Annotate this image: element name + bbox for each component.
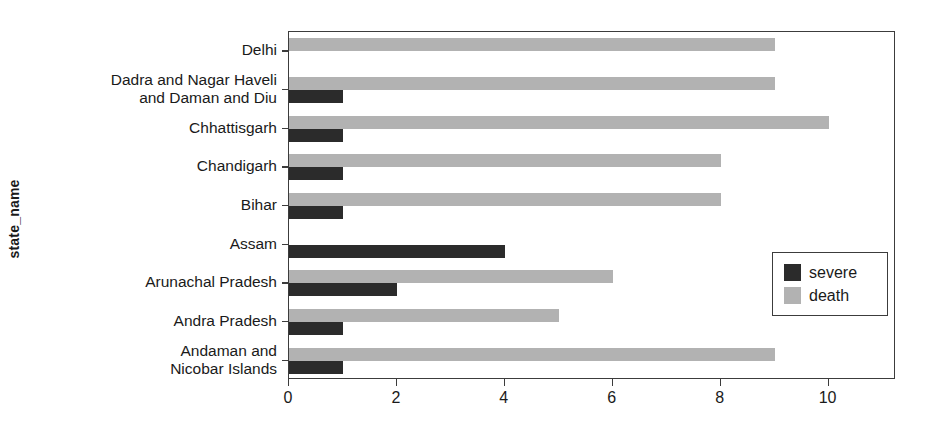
bar-death [289,193,721,206]
bar-severe [289,167,343,180]
y-tick-label: Dadra and Nagar Haveli and Daman and Diu [111,71,277,107]
bar-severe [289,90,343,103]
bar-severe [289,361,343,374]
legend-swatch-death [784,287,801,304]
x-tick-label: 0 [284,389,293,407]
legend-label-severe: severe [809,264,857,281]
x-tick-label: 4 [499,389,508,407]
x-tick-mark [396,379,397,386]
bar-death [289,154,721,167]
x-tick-mark [720,379,721,386]
y-tick-label: Bihar [241,196,277,214]
x-tick-mark [828,379,829,386]
x-tick-mark [504,379,505,386]
bar-severe [289,129,343,142]
y-tick-label: Assam [230,235,277,253]
y-tick-label: Andra Pradesh [174,312,277,330]
bar-death [289,77,775,90]
plot-area [288,31,895,379]
y-axis-tick-labels: Andaman and Nicobar IslandsAndra Pradesh… [28,31,283,379]
legend[interactable]: severe death [772,252,888,316]
bar-severe [289,283,397,296]
x-tick-label: 10 [819,389,837,407]
legend-entry-severe[interactable]: severe [784,261,887,284]
x-tick-label: 8 [715,389,724,407]
bar-severe [289,206,343,219]
bar-death [289,348,775,361]
bar-death [289,116,829,129]
y-tick-label: Chhattisgarh [189,119,277,137]
x-tick-mark [288,379,289,386]
y-tick-label: Arunachal Pradesh [145,273,277,291]
bar-chart: state_name Andaman and Nicobar IslandsAn… [0,0,933,438]
legend-swatch-severe [784,264,801,281]
y-tick-label: Chandigarh [197,157,277,175]
y-axis-title: state_name [0,0,28,438]
bar-death [289,270,613,283]
bar-severe [289,322,343,335]
x-tick-label: 6 [607,389,616,407]
x-tick-mark [612,379,613,386]
x-tick-label: 2 [391,389,400,407]
legend-label-death: death [809,287,849,304]
legend-entry-death[interactable]: death [784,284,887,307]
y-tick-label: Andaman and Nicobar Islands [170,342,277,378]
bar-severe [289,245,505,258]
bar-death [289,309,559,322]
y-tick-label: Delhi [242,41,277,59]
bar-death [289,38,775,51]
